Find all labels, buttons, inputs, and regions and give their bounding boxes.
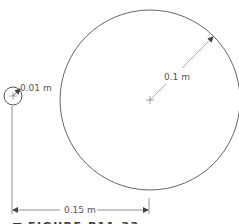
large-circle: 0.1 m [60,10,239,190]
large-radius-dimension [150,37,213,100]
small-radius-label: 0.01 m [20,83,52,93]
separation-label: 0.15 m [64,205,96,215]
caption-marker: ■ [12,220,24,224]
separation-dimension: 0.15 m [12,106,149,215]
small-circle: 0.01 m [4,83,52,105]
diagram-canvas: 0.1 m 0.01 m 0.15 m ■ FIGURE P11.33 [0,0,239,224]
small-radius-dimension [13,89,20,96]
figure-caption: ■ FIGURE P11.33 [12,220,140,224]
large-radius-label: 0.1 m [164,72,190,82]
caption-text: FIGURE P11.33 [28,220,140,224]
